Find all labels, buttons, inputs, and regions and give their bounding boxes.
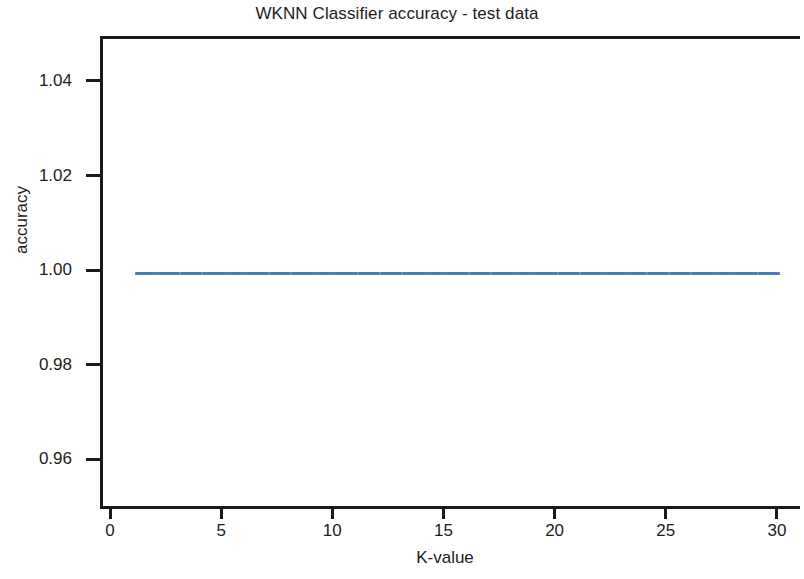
- plot-canvas: [103, 39, 800, 506]
- data-line-segment: [647, 272, 670, 275]
- y-axis-tick-label: 0.98: [2, 355, 72, 375]
- x-axis-tick-label: 0: [105, 521, 114, 541]
- chart-title: WKNN Classifier accuracy - test data: [0, 4, 794, 24]
- data-line-segment: [291, 272, 314, 275]
- y-axis-tick: [86, 458, 100, 461]
- x-axis-tick-label: 25: [656, 521, 675, 541]
- data-line-segment: [691, 272, 714, 275]
- x-axis-tick-label: 15: [434, 521, 453, 541]
- data-line-segment: [358, 272, 381, 275]
- y-axis-tick: [86, 79, 100, 82]
- data-line-segment: [624, 272, 647, 275]
- data-line-segment: [246, 272, 269, 275]
- y-axis-tick-label: 0.96: [2, 449, 72, 469]
- x-axis-tick-label: 30: [767, 521, 786, 541]
- data-line-segment: [424, 272, 447, 275]
- data-line-segment: [402, 272, 425, 275]
- data-line-segment: [313, 272, 336, 275]
- y-axis-tick-label: 1.02: [2, 166, 72, 186]
- y-axis-tick-label: 1.00: [2, 260, 72, 280]
- x-axis-tick-label: 10: [323, 521, 342, 541]
- data-line-segment: [446, 272, 469, 275]
- data-line-segment: [269, 272, 292, 275]
- x-axis-label: K-value: [0, 548, 804, 568]
- data-line-segment: [669, 272, 692, 275]
- data-line-segment: [202, 272, 225, 275]
- data-line-segment: [335, 272, 358, 275]
- y-axis-tick: [86, 174, 100, 177]
- plot-area: [100, 36, 800, 509]
- data-line-segment: [135, 272, 158, 275]
- data-line-segment: [469, 272, 492, 275]
- x-axis-tick-label: 20: [545, 521, 564, 541]
- data-line-segment: [491, 272, 514, 275]
- data-line-segment: [535, 272, 558, 275]
- data-line-segment: [713, 272, 736, 275]
- data-line-segment: [735, 272, 758, 275]
- data-line-segment: [758, 272, 781, 275]
- data-line-segment: [513, 272, 536, 275]
- data-line-segment: [602, 272, 625, 275]
- y-axis-tick: [86, 363, 100, 366]
- data-line-segment: [157, 272, 180, 275]
- y-axis-tick-label: 1.04: [2, 71, 72, 91]
- x-axis-tick-label: 5: [216, 521, 225, 541]
- data-line-segment: [180, 272, 203, 275]
- data-line-segment: [558, 272, 581, 275]
- data-line-segment: [580, 272, 603, 275]
- data-line-segment: [224, 272, 247, 275]
- data-line-segment: [380, 272, 403, 275]
- y-axis-tick: [86, 269, 100, 272]
